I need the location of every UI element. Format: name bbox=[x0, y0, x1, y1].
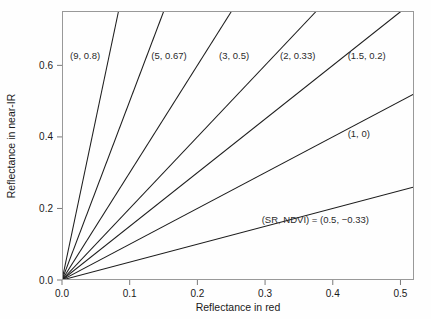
x-tick-label-1: 0.1 bbox=[123, 288, 137, 299]
x-tick-label-0: 0.0 bbox=[55, 288, 69, 299]
series-label-sr-2: (2, 0.33) bbox=[280, 50, 315, 61]
series-label-sr-9: (9, 0.8) bbox=[70, 50, 100, 61]
x-tick-label-4: 0.4 bbox=[326, 288, 340, 299]
series-label-sr-1-5: (1.5, 0.2) bbox=[348, 50, 386, 61]
chart-figure: 0.00.10.20.30.40.5 0.00.20.40.6 (9, 0.8)… bbox=[0, 0, 431, 319]
x-axis-title: Reflectance in red bbox=[196, 301, 281, 313]
x-tick-label-5: 0.5 bbox=[394, 288, 408, 299]
reflectance-sr-ndvi-chart: 0.00.10.20.30.40.5 0.00.20.40.6 (9, 0.8)… bbox=[0, 0, 431, 319]
x-tick-label-2: 0.2 bbox=[190, 288, 204, 299]
series-label-sr-1: (1, 0) bbox=[348, 128, 370, 139]
x-tick-label-3: 0.3 bbox=[258, 288, 272, 299]
y-tick-label-0: 0.0 bbox=[39, 275, 53, 286]
y-axis-title: Reflectance in near-IR bbox=[5, 93, 17, 198]
series-label-sr-0-5: (SR, NDVI) = (0.5, −0.33) bbox=[262, 214, 369, 225]
chart-background bbox=[0, 0, 431, 319]
series-label-sr-5: (5, 0.67) bbox=[151, 50, 186, 61]
y-tick-label-2: 0.4 bbox=[39, 131, 53, 142]
y-tick-label-1: 0.2 bbox=[39, 203, 53, 214]
series-label-sr-3: (3, 0.5) bbox=[219, 50, 249, 61]
y-tick-label-3: 0.6 bbox=[39, 60, 53, 71]
